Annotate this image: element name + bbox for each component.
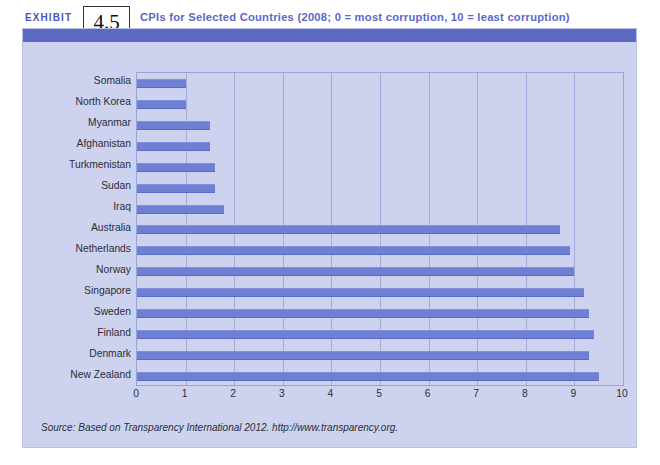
plot-area	[136, 72, 624, 386]
bar[interactable]	[137, 184, 215, 193]
bar[interactable]	[137, 142, 210, 151]
category-label: Denmark	[23, 348, 131, 359]
bar-row[interactable]	[137, 261, 623, 282]
exhibit-panel: SomaliaNorth KoreaMyanmarAfghanistanTurk…	[22, 28, 637, 448]
category-label: New Zealand	[23, 369, 131, 380]
panel-header-band	[23, 29, 636, 42]
bar-row[interactable]	[137, 220, 623, 241]
exhibit-title: CPIs for Selected Countries (2008; 0 = m…	[140, 11, 570, 23]
bar-row[interactable]	[137, 115, 623, 136]
source-note: Source: Based on Transparency Internatio…	[41, 422, 398, 433]
bar-row[interactable]	[137, 282, 623, 303]
bar[interactable]	[137, 163, 215, 172]
category-label: Myanmar	[23, 117, 131, 128]
category-axis-labels: SomaliaNorth KoreaMyanmarAfghanistanTurk…	[23, 72, 131, 386]
bar-row[interactable]	[137, 240, 623, 261]
bar-row[interactable]	[137, 345, 623, 366]
category-label: Turkmenistan	[23, 159, 131, 170]
bar-row[interactable]	[137, 94, 623, 115]
x-tick-label: 8	[522, 388, 528, 399]
bar-row[interactable]	[137, 73, 623, 94]
category-label: Sudan	[23, 180, 131, 191]
bar[interactable]	[137, 79, 186, 88]
bar-chart: SomaliaNorth KoreaMyanmarAfghanistanTurk…	[23, 42, 638, 417]
category-label: Sweden	[23, 306, 131, 317]
category-label: Netherlands	[23, 243, 131, 254]
bar[interactable]	[137, 288, 584, 297]
value-axis-labels: 012345678910	[136, 388, 624, 406]
x-tick-label: 0	[133, 388, 139, 399]
x-tick-label: 5	[376, 388, 382, 399]
bar-row[interactable]	[137, 157, 623, 178]
category-label: Somalia	[23, 75, 131, 86]
category-label: Iraq	[23, 201, 131, 212]
exhibit-header: EXHIBIT 4.5 CPIs for Selected Countries …	[0, 8, 660, 30]
category-label: Finland	[23, 327, 131, 338]
bar[interactable]	[137, 246, 570, 255]
bar-row[interactable]	[137, 303, 623, 324]
x-tick-label: 6	[425, 388, 431, 399]
category-label: North Korea	[23, 96, 131, 107]
bar[interactable]	[137, 225, 560, 234]
bar-row[interactable]	[137, 178, 623, 199]
x-tick-label: 9	[571, 388, 577, 399]
x-tick-label: 3	[279, 388, 285, 399]
x-tick-label: 1	[182, 388, 188, 399]
x-tick-label: 7	[473, 388, 479, 399]
bar[interactable]	[137, 351, 589, 360]
bar[interactable]	[137, 330, 594, 339]
category-label: Singapore	[23, 285, 131, 296]
bar-row[interactable]	[137, 366, 623, 387]
bar[interactable]	[137, 309, 589, 318]
category-label: Afghanistan	[23, 138, 131, 149]
x-tick-label: 10	[616, 388, 627, 399]
bar[interactable]	[137, 121, 210, 130]
category-label: Norway	[23, 264, 131, 275]
category-label: Australia	[23, 222, 131, 233]
exhibit-label: EXHIBIT	[25, 12, 72, 23]
bar-row[interactable]	[137, 136, 623, 157]
bar[interactable]	[137, 267, 574, 276]
bar[interactable]	[137, 100, 186, 109]
x-tick-label: 4	[328, 388, 334, 399]
bar-row[interactable]	[137, 324, 623, 345]
bar[interactable]	[137, 372, 599, 381]
bar-row[interactable]	[137, 199, 623, 220]
bar[interactable]	[137, 205, 224, 214]
x-tick-label: 2	[230, 388, 236, 399]
